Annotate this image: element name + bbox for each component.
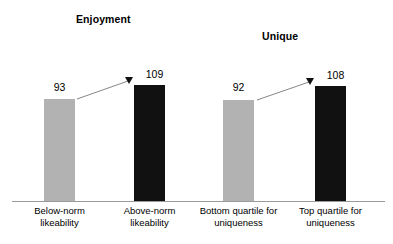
arrow-line-unique (257, 82, 309, 100)
category-label-2-line1: Above-norm (124, 205, 176, 216)
arrow-line-enjoyment (77, 81, 128, 99)
category-label-4-line1: Top quartile for (299, 205, 362, 216)
bar-above-norm-likeability (134, 85, 165, 201)
arrow-head-enjoyment (125, 77, 133, 84)
bar-chart-figure: Enjoyment Unique 93 109 92 108 (0, 0, 393, 244)
category-label-1-line1: Below-norm (34, 205, 85, 216)
bar-top-quartile-uniqueness (315, 86, 346, 201)
category-label-3-line1: Bottom quartile for (200, 205, 278, 216)
bar-value-label-3: 92 (223, 81, 254, 93)
category-label-1-line2: likeability (20, 217, 99, 229)
bar-value-label-1: 93 (44, 81, 75, 93)
category-label-1: Below-norm likeability (20, 205, 99, 228)
category-label-2-line2: likeability (110, 217, 189, 229)
bar-value-label-4: 108 (318, 69, 353, 81)
category-label-2: Above-norm likeability (110, 205, 189, 228)
bar-below-norm-likeability (44, 99, 75, 201)
arrow-unique (257, 78, 314, 100)
category-label-4: Top quartile for uniqueness (290, 205, 371, 228)
bar-bottom-quartile-uniqueness (223, 100, 254, 201)
category-label-4-line2: uniqueness (290, 217, 371, 229)
arrow-head-unique (306, 78, 314, 85)
category-label-3: Bottom quartile for uniqueness (194, 205, 283, 228)
bar-value-label-2: 109 (137, 68, 172, 80)
category-label-3-line2: uniqueness (194, 217, 283, 229)
arrow-enjoyment (77, 77, 133, 99)
axis-baseline (12, 201, 385, 202)
